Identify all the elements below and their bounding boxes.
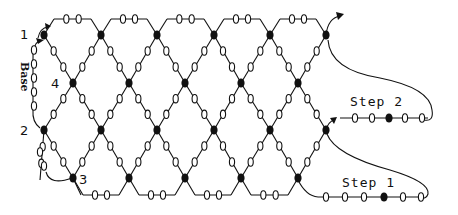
chain-stitch-icon — [132, 15, 137, 23]
chain-line — [241, 130, 270, 178]
chain-line — [270, 35, 298, 83]
chain-stitch-icon — [89, 47, 94, 55]
chain-stitch-icon — [277, 142, 282, 150]
chain-stitch-icon — [80, 94, 85, 102]
single-crochet-icon — [294, 78, 301, 87]
chain-stitch-icon — [173, 63, 178, 71]
chain-stitch-icon — [233, 15, 238, 23]
chain-stitch-icon — [164, 110, 169, 118]
chain-stitch-icon — [104, 191, 109, 199]
chain-stitch-icon — [164, 47, 169, 55]
chain-stitch-icon — [61, 158, 66, 166]
chain-stitch-icon — [31, 102, 36, 110]
single-crochet-icon — [69, 173, 76, 182]
chain-stitch-icon — [418, 193, 423, 201]
chain-stitch-icon — [342, 193, 347, 201]
single-crochet-icon — [266, 30, 273, 39]
single-crochet-icon — [237, 78, 244, 87]
chain-stitch-icon — [31, 60, 36, 68]
chain-stitch-icon — [369, 114, 374, 122]
chain-line — [214, 35, 241, 83]
single-crochet-icon — [210, 125, 217, 134]
chain-stitch-icon — [220, 47, 225, 55]
chain-stitch-icon — [173, 94, 178, 102]
chain-stitch-icon — [400, 193, 405, 201]
chain-stitch-icon — [323, 193, 328, 201]
chain-stitch-icon — [117, 158, 122, 166]
chain-stitch-icon — [229, 158, 234, 166]
label-point-4: 4 — [51, 77, 59, 90]
chain-stitch-icon — [245, 15, 250, 23]
chain-stitch-icon — [160, 191, 165, 199]
chain-stitch-icon — [314, 47, 319, 55]
label-point-1: 1 — [20, 28, 28, 41]
chain-stitch-icon — [202, 110, 207, 118]
arrow-head-icon — [330, 117, 337, 124]
chain-line — [298, 35, 326, 83]
chain-stitch-icon — [277, 47, 282, 55]
chain-stitch-icon — [136, 158, 141, 166]
chain-stitch-icon — [31, 46, 36, 54]
chain-stitch-icon — [80, 63, 85, 71]
chain-stitch-icon — [314, 110, 319, 118]
single-crochet-icon — [210, 30, 217, 39]
chain-stitch-icon — [248, 94, 253, 102]
single-crochet-icon — [125, 78, 132, 87]
single-crochet-icon — [266, 125, 273, 134]
chain-stitch-icon — [289, 15, 294, 23]
chain-stitch-icon — [202, 142, 207, 150]
single-crochet-icon — [125, 173, 132, 182]
label-base: Base — [19, 62, 30, 92]
chain-stitch-icon — [136, 94, 141, 102]
chain-line — [270, 83, 298, 130]
chain-stitch-icon — [248, 158, 253, 166]
single-crochet-icon — [380, 192, 387, 201]
chain-stitch-icon — [286, 63, 291, 71]
chain-stitch-icon — [258, 110, 263, 118]
chain-line — [214, 83, 241, 130]
chain-stitch-icon — [305, 94, 310, 102]
chain-stitch-icon — [361, 193, 366, 201]
single-crochet-icon — [40, 30, 47, 39]
chain-stitch-icon — [189, 15, 194, 23]
chain-stitch-icon — [273, 191, 278, 199]
chain-stitch-icon — [51, 110, 56, 118]
chain-stitch-icon — [37, 148, 42, 156]
label-point-2: 2 — [20, 124, 28, 137]
chain-stitch-icon — [31, 88, 36, 96]
chain-stitch-icon — [419, 114, 424, 122]
chain-stitch-icon — [76, 15, 81, 23]
label-step-2: Step 2 — [350, 95, 403, 108]
chain-line — [185, 83, 214, 130]
chain-stitch-icon — [229, 94, 234, 102]
chain-stitch-icon — [145, 110, 150, 118]
single-crochet-icon — [69, 78, 76, 87]
single-crochet-icon — [153, 30, 160, 39]
single-crochet-icon — [385, 113, 392, 122]
chain-stitch-icon — [31, 74, 36, 82]
chain-line — [44, 130, 73, 178]
chain-stitch-icon — [108, 110, 113, 118]
chain-line — [73, 83, 101, 130]
chain-stitch-icon — [145, 47, 150, 55]
chain-line — [298, 83, 326, 130]
chain-stitch-icon — [108, 47, 113, 55]
chain-stitch-icon — [136, 63, 141, 71]
chain-stitch-icon — [286, 94, 291, 102]
chain-stitch-icon — [192, 63, 197, 71]
chain-stitch-icon — [148, 191, 153, 199]
return-curve — [46, 172, 72, 181]
chain-stitch-icon — [192, 158, 197, 166]
chain-line — [129, 83, 157, 130]
chain-stitch-icon — [61, 63, 66, 71]
chain-stitch-icon — [204, 191, 209, 199]
chain-stitch-icon — [145, 142, 150, 150]
chain-stitch-icon — [220, 110, 225, 118]
chain-line — [185, 130, 214, 178]
chain-stitch-icon — [89, 142, 94, 150]
chain-line — [73, 130, 101, 178]
chain-stitch-icon — [89, 110, 94, 118]
chain-stitch-icon — [64, 15, 69, 23]
chain-stitch-icon — [51, 47, 56, 55]
chain-stitch-icon — [305, 63, 310, 71]
